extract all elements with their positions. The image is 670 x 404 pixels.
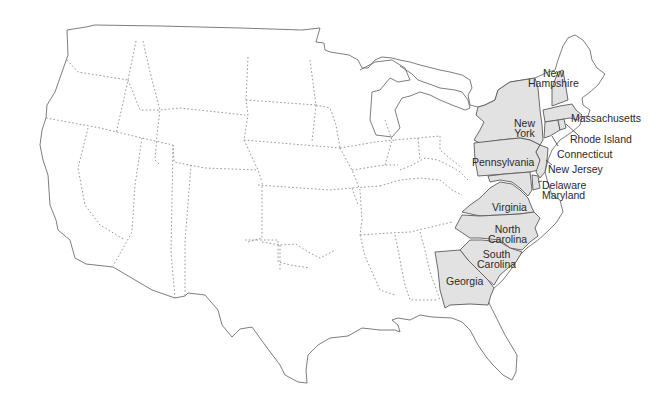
label-line: York — [514, 128, 535, 138]
label-virginia: Virginia — [492, 202, 527, 212]
colony-connecticut — [544, 120, 560, 138]
colony-delaware — [532, 175, 540, 190]
great-lakes — [360, 60, 470, 137]
label-connecticut: Connecticut — [557, 149, 612, 159]
label-massachusetts: Massachusetts — [571, 113, 641, 123]
label-new-hampshire: New Hampshire — [528, 68, 579, 88]
label-south-carolina: South Carolina — [477, 249, 516, 269]
label-maryland: Maryland — [542, 190, 585, 200]
state-borders — [46, 41, 468, 300]
label-line: Hampshire — [528, 78, 579, 88]
label-new-york: New York — [514, 118, 535, 138]
label-line: Carolina — [488, 234, 527, 244]
label-new-jersey: New Jersey — [548, 164, 603, 174]
label-pennsylvania: Pennsylvania — [472, 157, 534, 167]
label-rhode-island: Rhode Island — [570, 134, 632, 144]
label-line: Carolina — [477, 259, 516, 269]
label-georgia: Georgia — [446, 276, 483, 286]
us-map — [0, 0, 670, 404]
label-north-carolina: North Carolina — [488, 224, 527, 244]
